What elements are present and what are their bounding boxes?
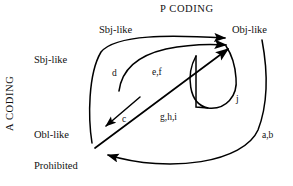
row-header-prohibited: Prohibited [34,161,78,172]
edge-ab-path [108,40,266,164]
edge-d-path [90,36,225,143]
axis-title-a-coding: A CODING [5,71,16,135]
column-header-sbj-like: Sbj-like [99,25,132,36]
edge-ef-path [119,44,226,91]
row-header-obl-like: Obl-like [34,130,69,141]
edge-label-ab: a,b [262,131,273,141]
edge-label-j: j [236,95,239,105]
edge-label-d: d [112,69,117,79]
edge-label-ghi: g,h,i [160,113,177,123]
edge-j-path [190,46,236,108]
edge-j-bracket [196,56,208,108]
row-header-sbj-like: Sbj-like [34,55,67,66]
transition-diagram: P CODING A CODING Sbj-like Obj-like Sbj-… [0,0,293,186]
edge-label-ef: e,f [152,68,162,78]
edge-label-c: c [122,115,126,125]
axis-title-p-coding: P CODING [160,4,214,15]
column-header-obj-like: Obj-like [232,25,267,36]
edge-ghi-path [95,49,228,148]
